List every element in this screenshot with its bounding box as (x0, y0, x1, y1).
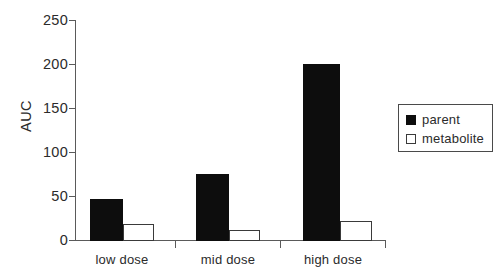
y-tick-mark-250 (69, 20, 76, 21)
bar-metabolite-mid-dose (229, 230, 260, 241)
x-category-label-low-dose: low dose (62, 252, 182, 267)
y-tick-mark-100 (69, 152, 76, 153)
y-tick-mark-50 (69, 196, 76, 197)
y-tick-label-100: 100 (8, 145, 68, 160)
hollow-square-icon (406, 134, 416, 144)
y-tick-label-50: 50 (8, 189, 68, 204)
filled-square-icon (406, 115, 416, 125)
legend-item-parent: parent (406, 110, 492, 129)
y-axis-line (75, 20, 76, 241)
chart-legend: parent metabolite (398, 104, 493, 152)
y-tick-label-200: 200 (8, 57, 68, 72)
bar-parent-mid-dose (196, 174, 229, 241)
x-tick-mark-3 (385, 241, 386, 248)
y-tick-mark-0 (69, 240, 76, 241)
y-tick-label-250: 250 (8, 13, 68, 28)
legend-label-metabolite: metabolite (422, 131, 484, 146)
y-tick-mark-150 (69, 108, 76, 109)
x-category-label-mid-dose: mid dose (168, 252, 288, 267)
y-tick-label-0: 0 (8, 233, 68, 248)
legend-label-parent: parent (422, 112, 460, 127)
y-tick-label-150: 150 (8, 101, 68, 116)
bar-parent-low-dose (90, 199, 123, 241)
bar-metabolite-low-dose (123, 224, 154, 241)
x-tick-mark-2 (280, 241, 281, 248)
y-tick-mark-200 (69, 64, 76, 65)
bar-metabolite-high-dose (340, 221, 372, 241)
bar-chart: AUC 250 200 150 100 50 0 low dose mid do… (0, 0, 500, 280)
y-axis-title: AUC (18, 93, 34, 139)
x-tick-mark-1 (175, 241, 176, 248)
x-category-label-high-dose: high dose (273, 252, 393, 267)
legend-item-metabolite: metabolite (406, 129, 492, 148)
bar-parent-high-dose (303, 64, 340, 241)
